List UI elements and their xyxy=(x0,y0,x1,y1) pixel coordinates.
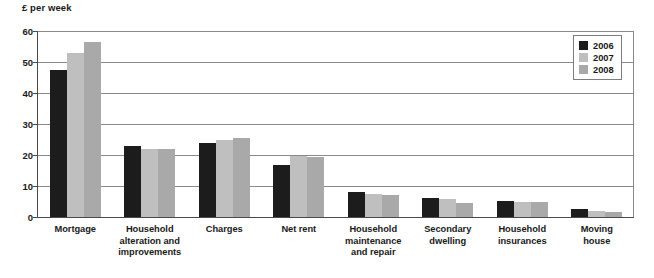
y-axis-tick-label: 10 xyxy=(22,181,33,192)
legend-label: 2006 xyxy=(593,41,614,51)
bar-2006[interactable] xyxy=(422,198,439,217)
bar-group xyxy=(485,31,560,217)
bar-group-bars xyxy=(485,31,560,217)
x-axis-category-label: Householdmaintenanceand repair xyxy=(336,224,411,259)
bar-2008[interactable] xyxy=(456,203,473,217)
bar-2006[interactable] xyxy=(571,209,588,217)
x-axis-line xyxy=(37,217,634,218)
bar-2007[interactable] xyxy=(67,53,84,217)
bar-2007[interactable] xyxy=(141,149,158,217)
x-axis-labels: MortgageHouseholdalteration andimproveme… xyxy=(38,224,634,278)
bar-2007[interactable] xyxy=(365,194,382,217)
chart-legend: 200620072008 xyxy=(573,35,622,80)
bar-2006[interactable] xyxy=(497,201,514,217)
bar-2008[interactable] xyxy=(84,42,101,217)
legend-swatch-icon xyxy=(579,65,588,74)
y-axis-tick-label: 30 xyxy=(22,119,33,130)
bar-2007[interactable] xyxy=(216,140,233,218)
bar-2006[interactable] xyxy=(50,70,67,217)
bar-chart: £ per week 0102030405060 MortgageHouseho… xyxy=(0,0,654,278)
bar-2007[interactable] xyxy=(514,202,531,218)
bar-2008[interactable] xyxy=(605,212,622,217)
bar-group xyxy=(38,31,113,217)
legend-label: 2008 xyxy=(593,65,614,75)
x-axis-category-label: Charges xyxy=(187,224,262,236)
bar-group-bars xyxy=(113,31,188,217)
x-axis-category-label: Net rent xyxy=(262,224,337,236)
y-axis-tick-label: 60 xyxy=(22,26,33,37)
bar-2006[interactable] xyxy=(199,143,216,217)
bar-group-bars xyxy=(336,31,411,217)
x-axis-category-label: Mortgage xyxy=(38,224,113,236)
legend-label: 2007 xyxy=(593,53,614,63)
x-axis-category-label: Secondarydwelling xyxy=(411,224,486,247)
y-axis-tick-label: 20 xyxy=(22,150,33,161)
x-axis-category-label: Householdalteration andimprovements xyxy=(113,224,188,259)
bar-group xyxy=(262,31,337,217)
x-axis-category-label: Householdinsurances xyxy=(485,224,560,247)
legend-item[interactable]: 2007 xyxy=(579,52,614,63)
y-axis-tick-label: 40 xyxy=(22,88,33,99)
legend-swatch-icon xyxy=(579,41,588,50)
bar-group-bars xyxy=(187,31,262,217)
bar-2008[interactable] xyxy=(382,195,399,217)
bar-2007[interactable] xyxy=(588,211,605,217)
legend-swatch-icon xyxy=(579,53,588,62)
legend-item[interactable]: 2006 xyxy=(579,40,614,51)
legend-item[interactable]: 2008 xyxy=(579,64,614,75)
bar-group xyxy=(113,31,188,217)
bar-2006[interactable] xyxy=(348,192,365,217)
bar-group xyxy=(411,31,486,217)
x-axis-category-label: Movinghouse xyxy=(560,224,635,247)
bar-2008[interactable] xyxy=(158,149,175,217)
y-axis-tick-label: 50 xyxy=(22,57,33,68)
bar-group xyxy=(187,31,262,217)
bar-2006[interactable] xyxy=(273,165,290,217)
bar-group-bars xyxy=(38,31,113,217)
bar-group xyxy=(336,31,411,217)
bar-2006[interactable] xyxy=(124,146,141,217)
bar-2008[interactable] xyxy=(531,202,548,218)
bar-2008[interactable] xyxy=(307,157,324,217)
bar-group-bars xyxy=(411,31,486,217)
bar-groups xyxy=(38,31,634,217)
bar-group-bars xyxy=(262,31,337,217)
bar-2007[interactable] xyxy=(439,199,456,217)
bar-2008[interactable] xyxy=(233,138,250,217)
y-axis-ticks: 0102030405060 xyxy=(0,0,33,278)
bar-2007[interactable] xyxy=(290,156,307,217)
